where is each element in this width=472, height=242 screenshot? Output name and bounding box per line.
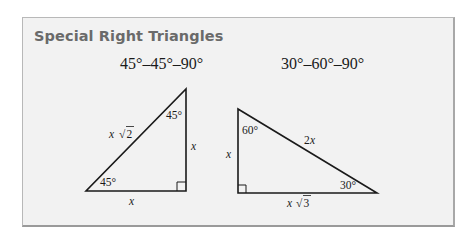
triangles-figure: 45° 45° x √ 2 x x 60° 30° 2 x x x √ 3 bbox=[0, 0, 472, 242]
side-label-vertical-30: x bbox=[225, 148, 232, 160]
hyp-var-30: x bbox=[309, 134, 316, 146]
triangle-45-45-90: 45° 45° x √ 2 x x bbox=[86, 89, 197, 207]
sqrt-symbol-icon: √ bbox=[296, 197, 303, 209]
sqrt-symbol-icon: √ bbox=[119, 128, 126, 140]
horiz-root-30: 3 bbox=[304, 197, 310, 209]
right-angle-marker-30 bbox=[238, 185, 246, 193]
hyp-root-45: 2 bbox=[127, 128, 133, 140]
triangle-30-60-90: 60° 30° 2 x x x √ 3 bbox=[225, 109, 377, 209]
side-label-hypotenuse-45: x √ 2 bbox=[108, 127, 134, 141]
horiz-var-30: x bbox=[286, 197, 293, 209]
right-angle-marker-45 bbox=[177, 182, 186, 191]
side-label-vertical-45: x bbox=[190, 140, 197, 152]
side-label-horizontal-30: x √ 3 bbox=[286, 196, 311, 210]
hyp-var-45: x bbox=[108, 128, 115, 140]
triangle-30-outline bbox=[238, 109, 377, 193]
side-label-horizontal-45: x bbox=[128, 195, 135, 207]
angle-label-top-60: 60° bbox=[242, 124, 259, 136]
angle-label-bottom-left-45: 45° bbox=[100, 176, 117, 188]
angle-label-bottom-right-30: 30° bbox=[340, 179, 357, 191]
side-label-hypotenuse-30: 2 x bbox=[304, 134, 316, 146]
angle-label-top-45: 45° bbox=[166, 109, 183, 121]
